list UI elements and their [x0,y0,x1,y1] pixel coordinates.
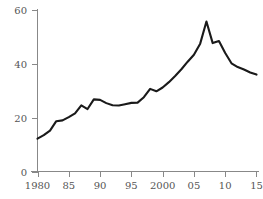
x-tick-label: 85 [62,180,75,191]
x-tick-label: 2000 [150,180,175,191]
data-series-group [38,22,257,139]
y-tick-label: 60 [14,5,27,16]
x-tick-label: 15 [250,180,263,191]
data-line [38,22,257,139]
x-tick-group: 19808590952000051015 [25,172,263,192]
y-tick-label: 0 [21,167,27,178]
x-axis-group: 19808590952000051015 [25,172,263,192]
chart-container: 0204060 19808590952000051015 [0,0,263,199]
x-tick-label: 1980 [25,180,50,191]
y-tick-label: 40 [14,59,27,70]
y-tick-group: 0204060 [14,5,37,178]
x-tick-label: 90 [94,180,107,191]
x-tick-label: 05 [188,180,201,191]
line-chart: 0204060 19808590952000051015 [0,0,263,199]
x-tick-label: 95 [125,180,138,191]
x-tick-label: 10 [219,180,232,191]
y-tick-label: 20 [14,113,27,124]
y-axis-group: 0204060 [14,5,37,178]
